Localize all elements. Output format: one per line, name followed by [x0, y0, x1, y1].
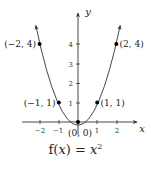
caption-part: f(	[49, 142, 59, 157]
x-tick-label: 2	[115, 127, 119, 135]
x-tick-label: −2	[35, 127, 45, 135]
point-neg1-1	[57, 101, 61, 105]
point-label: (−1, 1)	[24, 98, 56, 108]
y-tick-label: 3	[69, 61, 73, 69]
point-label: (−2, 4)	[4, 39, 36, 49]
point-label: (1, 1)	[101, 98, 125, 108]
caption-part: ) =	[66, 142, 90, 157]
y-tick-label: 1	[69, 100, 73, 108]
function-caption: f(x) = x2	[0, 142, 151, 157]
point-origin	[76, 120, 80, 124]
y-tick-label: 4	[69, 41, 74, 49]
point-1-1	[95, 101, 99, 105]
y-axis-label: y	[84, 6, 91, 17]
point-label: (0, 0)	[68, 128, 92, 138]
x-axis-label: x	[139, 123, 145, 134]
x-tick-label: 1	[95, 127, 99, 135]
caption-exponent: 2	[97, 142, 102, 151]
x-tick-label: −1	[53, 127, 63, 135]
point-label: (2, 4)	[120, 39, 144, 49]
caption-variable: x	[58, 142, 65, 157]
point-2-4	[114, 42, 118, 46]
point-neg2-4	[38, 42, 42, 46]
y-tick-label: 2	[69, 80, 73, 88]
